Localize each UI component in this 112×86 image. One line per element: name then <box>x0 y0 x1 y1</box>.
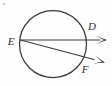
point-label-F: F <box>81 63 89 75</box>
figure-canvas: E D F <box>0 0 112 86</box>
geometry-figure: E D F <box>0 0 112 86</box>
ray-EF <box>21 40 95 60</box>
point-label-E: E <box>7 35 15 47</box>
scan-speck <box>3 3 5 5</box>
point-label-D: D <box>87 20 96 32</box>
circle-outline <box>20 11 87 78</box>
ray-EF-arrowhead <box>93 56 105 64</box>
